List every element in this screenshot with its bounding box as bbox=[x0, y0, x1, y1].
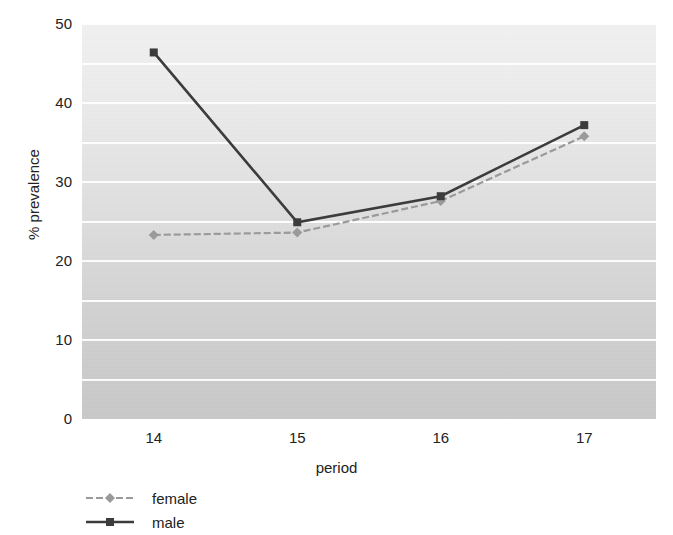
data-point-marker bbox=[293, 218, 301, 226]
data-point-marker bbox=[150, 48, 158, 56]
x-axis-tick-label: 15 bbox=[262, 430, 332, 445]
series-male bbox=[150, 48, 589, 226]
y-axis-tick-label: 50 bbox=[14, 16, 72, 31]
data-point-marker bbox=[292, 228, 302, 238]
x-axis-tick-label: 16 bbox=[406, 430, 476, 445]
legend-swatch-male-icon bbox=[84, 513, 136, 531]
data-point-marker bbox=[105, 493, 115, 503]
data-point-marker bbox=[106, 518, 114, 526]
data-point-marker bbox=[579, 131, 589, 141]
x-axis-tick-label: 14 bbox=[119, 430, 189, 445]
data-series-layer bbox=[0, 0, 673, 535]
chart-legend: femalemale bbox=[84, 486, 197, 534]
y-axis-tick-label: 10 bbox=[14, 332, 72, 347]
series-female bbox=[149, 131, 590, 240]
data-point-marker bbox=[437, 192, 445, 200]
y-axis-tick-label: 20 bbox=[14, 253, 72, 268]
legend-label: male bbox=[152, 514, 185, 531]
series-line bbox=[154, 136, 585, 235]
legend-item-male[interactable]: male bbox=[84, 510, 197, 534]
y-axis-tick-label: 0 bbox=[14, 411, 72, 426]
x-axis-title: period bbox=[0, 459, 673, 476]
series-line bbox=[154, 52, 585, 222]
x-axis-tick-label: 17 bbox=[549, 430, 619, 445]
y-axis-title: % prevalence bbox=[25, 115, 42, 275]
chart-container: 01020304050 % prevalence 14151617 period… bbox=[0, 0, 673, 535]
legend-item-female[interactable]: female bbox=[84, 486, 197, 510]
y-axis-tick-label: 40 bbox=[14, 95, 72, 110]
legend-swatch-female-icon bbox=[84, 489, 136, 507]
data-point-marker bbox=[149, 230, 159, 240]
legend-label: female bbox=[152, 490, 197, 507]
data-point-marker bbox=[580, 121, 588, 129]
y-axis-tick-label: 30 bbox=[14, 174, 72, 189]
